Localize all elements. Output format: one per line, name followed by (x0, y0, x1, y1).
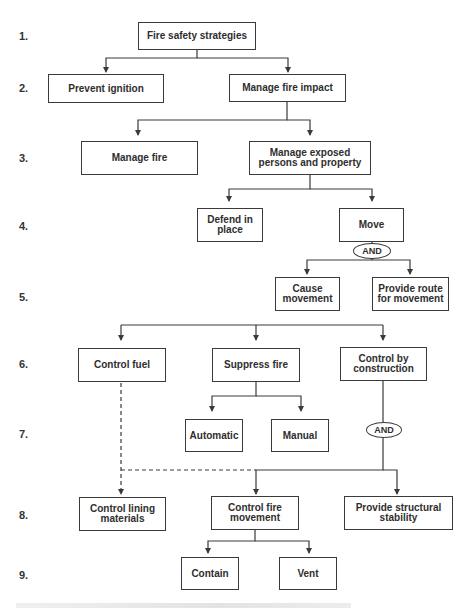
node-prevent-ignition: Prevent ignition (48, 74, 164, 103)
level-label: 3. (19, 152, 28, 164)
node-cause-movement: Cause movement (275, 277, 340, 311)
node-manage-exposed: Manage exposed persons and property (249, 141, 371, 175)
node-control-lining: Control lining materials (79, 497, 166, 531)
level-label: 8. (19, 509, 28, 521)
level-label: 7. (19, 428, 28, 440)
level-label: 9. (19, 569, 28, 581)
node-move: Move (339, 208, 404, 242)
node-control-fuel: Control fuel (78, 348, 166, 382)
node-manual: Manual (271, 419, 329, 452)
level-label: 6. (19, 358, 28, 370)
node-provide-route: Provide route for movement (372, 277, 449, 311)
level-label: 5. (19, 291, 28, 303)
node-vent: Vent (279, 557, 337, 590)
level-label: 4. (19, 220, 28, 232)
level-label: 2. (19, 82, 28, 94)
level-label: 1. (19, 30, 28, 42)
node-manage-fire-impact: Manage fire impact (229, 74, 346, 102)
node-control-fire-movement: Control fire movement (211, 496, 299, 530)
fire-safety-diagram: 1. 2. 3. 4. 5. 6. 7. 8. 9. Fire safety s… (0, 0, 473, 612)
faint-caption (16, 603, 351, 608)
node-fire-safety-strategies: Fire safety strategies (138, 22, 256, 50)
node-control-by-construction: Control by construction (340, 347, 427, 381)
node-provide-structural: Provide structural stability (344, 496, 453, 530)
node-suppress-fire: Suppress fire (212, 348, 300, 382)
and-gate: AND (353, 243, 391, 259)
node-defend-in-place: Defend in place (197, 208, 263, 242)
node-manage-fire: Manage fire (81, 141, 198, 175)
node-automatic: Automatic (185, 419, 243, 452)
node-contain: Contain (181, 557, 239, 590)
and-gate: AND (366, 422, 402, 438)
